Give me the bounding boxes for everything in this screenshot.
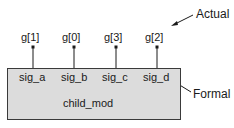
formal-port-sig-a: sig_a [19, 71, 45, 83]
actual-arrow-icon [171, 15, 193, 26]
formal-port-sig-c: sig_c [102, 71, 128, 83]
actual-annotation: Actual [196, 8, 229, 21]
formal-port-sig-b: sig_b [61, 71, 87, 83]
pin-dot-icon [73, 46, 76, 49]
pin-dot-icon [115, 46, 118, 49]
actual-signal-g3: g[3] [104, 31, 122, 43]
module-name: child_mod [63, 97, 113, 109]
formal-annotation: Formal [193, 88, 230, 101]
pin-dot-icon [32, 46, 35, 49]
pin-dot-icon [156, 46, 159, 49]
actual-signal-g0: g[0] [62, 31, 80, 43]
formal-port-sig-d: sig_d [143, 71, 169, 83]
actual-signal-g1: g[1] [21, 31, 39, 43]
actual-signal-g2: g[2] [145, 31, 163, 43]
